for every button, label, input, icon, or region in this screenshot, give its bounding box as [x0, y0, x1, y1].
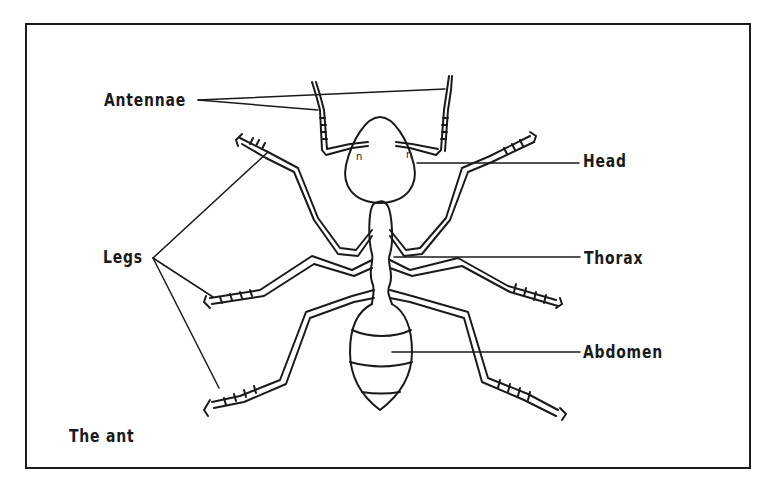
thorax-drawing [369, 203, 392, 304]
leg-left-hind [204, 290, 374, 416]
leader-lines [153, 89, 580, 388]
label-head: Head [583, 153, 627, 170]
label-antennae: Antennae [104, 92, 186, 109]
label-legs: Legs [103, 249, 143, 266]
leg-right-middle [390, 258, 562, 308]
antennae-drawing [312, 76, 452, 155]
leg-right-hind [390, 290, 566, 420]
label-abdomen: Abdomen [583, 344, 663, 361]
leg-left-middle [204, 256, 372, 308]
svg-text:n: n [356, 151, 362, 162]
leg-left-front [236, 134, 372, 256]
label-thorax: Thorax [584, 250, 643, 267]
svg-text:n: n [406, 149, 412, 160]
diagram-caption: The ant [69, 428, 134, 445]
ant-illustration: n n [0, 0, 773, 488]
